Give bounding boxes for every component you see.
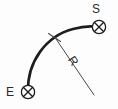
diagram-canvas: R E S <box>0 0 118 109</box>
curve-arc <box>28 26 97 92</box>
radius-leader-line <box>55 38 94 96</box>
point-e-marker <box>21 85 34 98</box>
point-s-marker <box>92 20 105 33</box>
point-s-label: S <box>92 2 100 16</box>
point-e-label: E <box>6 85 14 99</box>
curve-diagram: R E S <box>0 0 118 109</box>
